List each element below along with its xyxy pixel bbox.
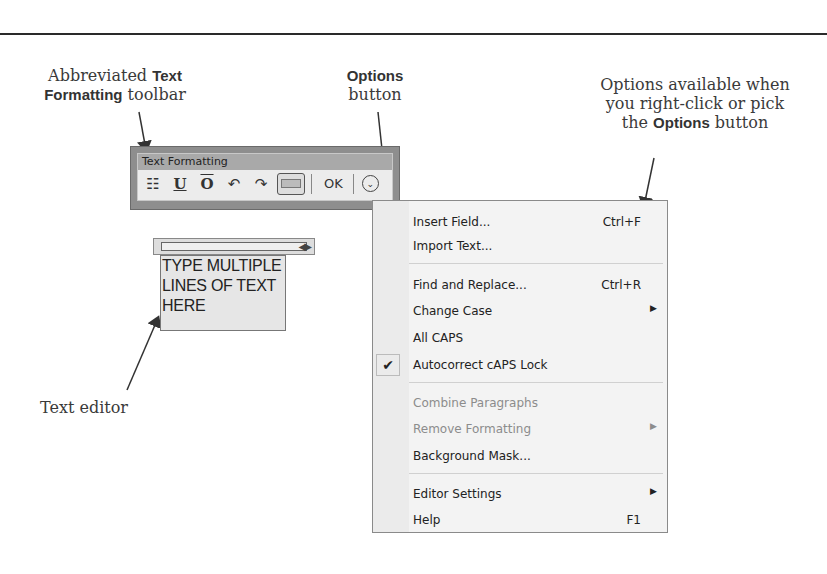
- menu-shortcut: F1: [626, 513, 641, 527]
- menu-label: All CAPS: [413, 331, 463, 345]
- multiline-text-icon[interactable]: ☷: [142, 173, 164, 195]
- menu-item-all-caps[interactable]: All CAPS: [373, 326, 667, 350]
- menu-separator: [409, 382, 663, 383]
- menu-label: Background Mask...: [413, 449, 531, 463]
- ruler-arrows-icon[interactable]: ◀▶: [299, 239, 310, 254]
- editor-line: TYPE MULTIPLE: [162, 256, 285, 276]
- ok-button[interactable]: OK: [320, 176, 347, 191]
- menu-separator: [409, 263, 663, 264]
- menu-item-editor-settings[interactable]: Editor Settings ▶: [373, 482, 667, 506]
- menu-label: Autocorrect cAPS Lock: [413, 358, 548, 372]
- menu-label: Help: [413, 513, 440, 527]
- menu-label: Import Text...: [413, 239, 492, 253]
- menu-item-combine-paragraphs: Combine Paragraphs: [373, 391, 667, 415]
- menu-item-find-replace[interactable]: Find and Replace... Ctrl+R: [373, 273, 667, 297]
- toolbar-title: Text Formatting: [138, 154, 392, 170]
- menu-label: Find and Replace...: [413, 278, 527, 292]
- menu-separator: [409, 473, 663, 474]
- menu-item-import-text[interactable]: Import Text...: [373, 234, 667, 258]
- menu-item-help[interactable]: Help F1: [373, 508, 667, 532]
- toolbar-separator: [353, 174, 354, 194]
- submenu-arrow-icon: ▶: [650, 303, 657, 313]
- toolbar-separator: [311, 174, 312, 194]
- underline-button[interactable]: U: [169, 173, 191, 195]
- redo-icon[interactable]: ↷: [250, 173, 272, 195]
- menu-label: Combine Paragraphs: [413, 396, 538, 410]
- editor-line: HERE: [162, 296, 285, 316]
- menu-item-background-mask[interactable]: Background Mask...: [373, 444, 667, 468]
- menu-shortcut: Ctrl+F: [603, 215, 641, 229]
- text-formatting-toolbar: Text Formatting ☷ U O ↶ ↷ OK ⌄: [130, 146, 400, 210]
- text-editor[interactable]: TYPE MULTIPLE LINES OF TEXT HERE: [160, 255, 286, 331]
- menu-label: Remove Formatting: [413, 422, 531, 436]
- menu-label: Change Case: [413, 304, 492, 318]
- editor-ruler[interactable]: ◀▶: [153, 238, 315, 255]
- submenu-arrow-icon: ▶: [650, 421, 657, 431]
- ruler-toggle-icon[interactable]: [277, 173, 305, 195]
- menu-label: Insert Field...: [413, 215, 490, 229]
- checkmark-icon: ✔: [376, 354, 400, 376]
- options-menu: Insert Field... Ctrl+F Import Text... Fi…: [372, 200, 668, 533]
- options-chevron-icon[interactable]: ⌄: [362, 175, 379, 192]
- ruler-track[interactable]: [161, 242, 307, 251]
- menu-shortcut: Ctrl+R: [601, 278, 641, 292]
- editor-line: LINES OF TEXT: [162, 276, 285, 296]
- menu-item-remove-formatting: Remove Formatting ▶: [373, 417, 667, 441]
- menu-item-change-case[interactable]: Change Case ▶: [373, 299, 667, 323]
- menu-label: Editor Settings: [413, 487, 502, 501]
- menu-item-autocorrect-caps-lock[interactable]: ✔ Autocorrect cAPS Lock: [373, 353, 667, 377]
- submenu-arrow-icon: ▶: [650, 486, 657, 496]
- undo-icon[interactable]: ↶: [223, 173, 245, 195]
- overline-button[interactable]: O: [196, 173, 218, 195]
- menu-item-insert-field[interactable]: Insert Field... Ctrl+F: [373, 210, 667, 234]
